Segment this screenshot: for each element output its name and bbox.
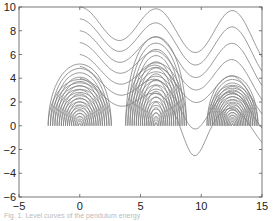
y-tick-label: −2 [3,144,16,156]
contour-line [155,122,158,126]
contour-lines [48,7,262,156]
y-tick-label: −6 [3,191,16,203]
y-tick-label: 8 [10,25,16,37]
contour-line [231,124,233,126]
x-tick-label: 10 [195,200,207,212]
y-tick-label: 0 [10,120,16,132]
y-axis-tick-labels: −6−4−20246810 [3,1,16,203]
x-tick-label: 5 [137,200,143,212]
contour-line [138,74,173,126]
y-tick-label: 10 [4,1,16,13]
chart: −5051015 −6−4−20246810 [0,0,278,221]
contour-line [78,123,81,126]
x-axis-tick-labels: −5051015 [13,200,268,212]
contour-line [53,73,107,126]
y-tick-label: 2 [10,96,16,108]
x-tick-label: 0 [77,200,83,212]
figure-caption: Fig. 1. Level curves of the pendulum ene… [4,212,140,219]
contour-line [144,91,168,126]
x-tick-label: 15 [256,200,268,212]
y-tick-label: −4 [3,167,16,179]
y-tick-label: 4 [10,72,16,84]
y-tick-label: 6 [10,49,16,61]
